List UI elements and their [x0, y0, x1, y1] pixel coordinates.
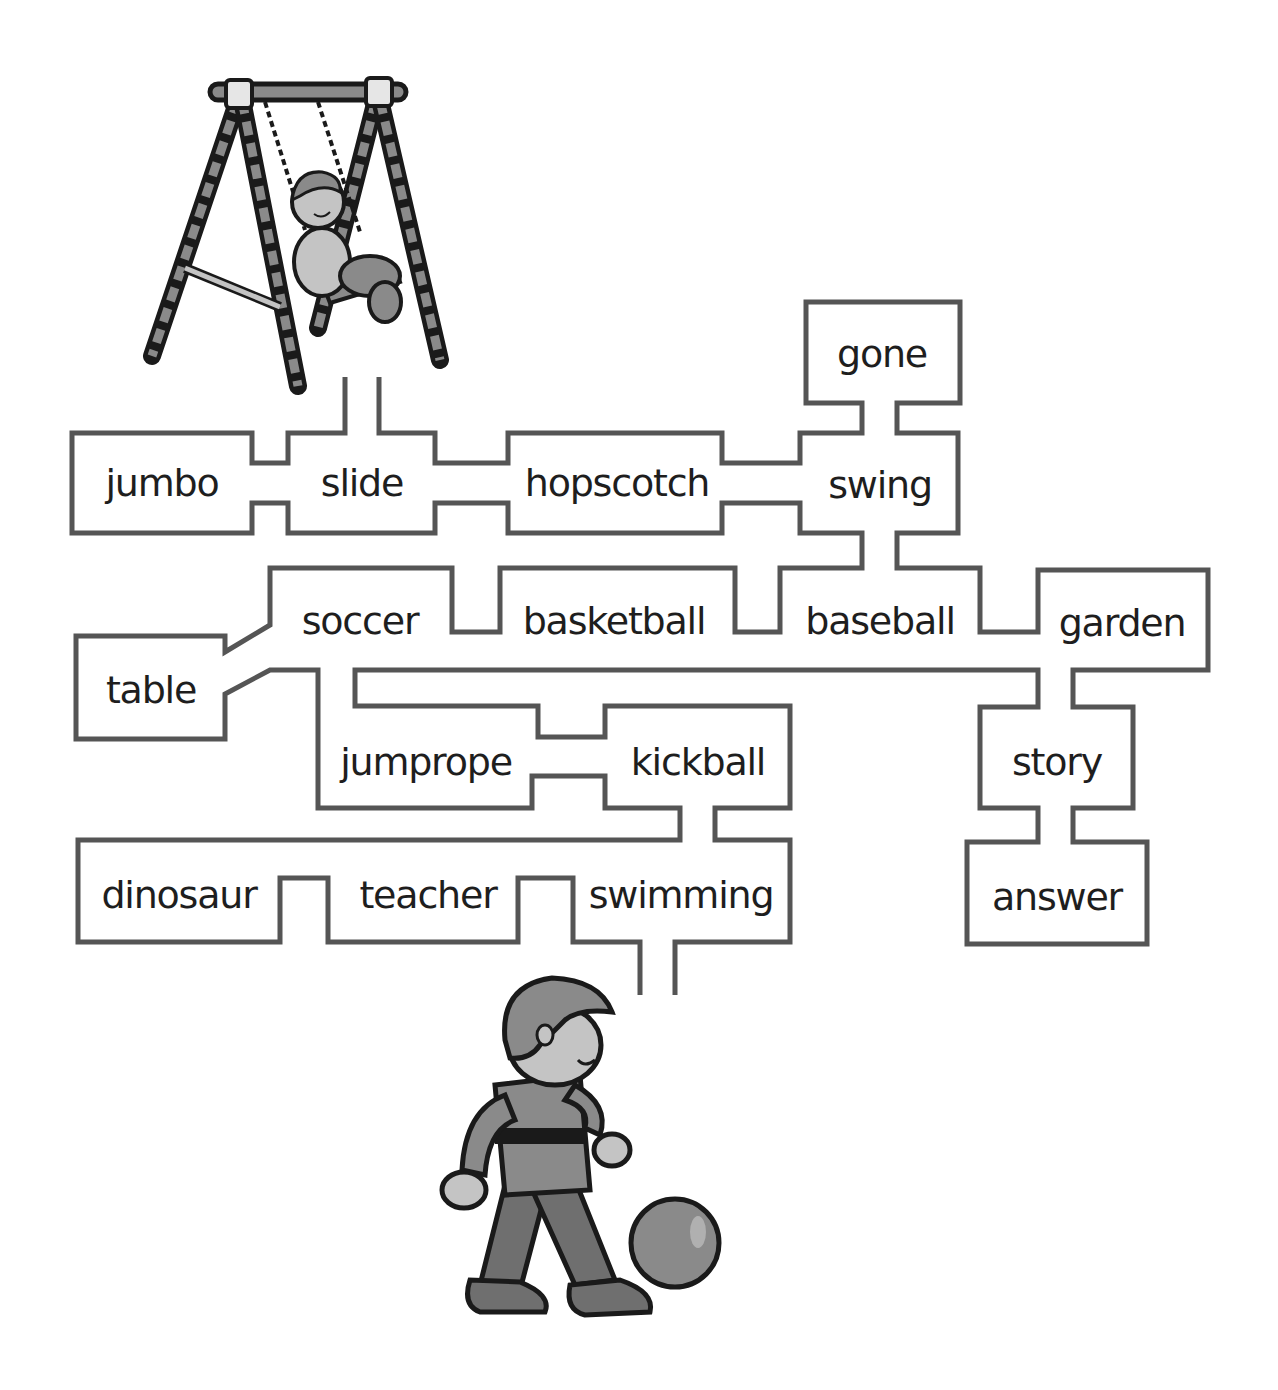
word-basketball: basketball	[523, 602, 706, 640]
word-swimming: swimming	[589, 876, 774, 914]
word-dinosaur: dinosaur	[101, 876, 256, 914]
word-answer: answer	[992, 878, 1122, 916]
word-soccer: soccer	[302, 602, 419, 640]
word-slide: slide	[321, 464, 403, 502]
word-story: story	[1012, 743, 1102, 781]
word-baseball: baseball	[805, 602, 955, 640]
swing-set-illustration	[152, 78, 440, 386]
word-jumprope: jumprope	[340, 743, 512, 781]
word-table: table	[106, 671, 196, 709]
word-garden: garden	[1059, 604, 1186, 642]
word-swing: swing	[828, 466, 932, 504]
word-kickball: kickball	[631, 743, 765, 781]
word-gone: gone	[837, 335, 927, 373]
word-hopscotch: hopscotch	[525, 464, 709, 502]
word-teacher: teacher	[359, 876, 496, 914]
word-jumbo: jumbo	[105, 464, 218, 502]
boy-kicking-ball-illustration	[442, 978, 719, 1315]
